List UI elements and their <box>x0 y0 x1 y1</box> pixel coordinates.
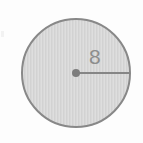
circle-diagram-svg <box>0 0 143 143</box>
scan-artifact-mark <box>1 31 4 37</box>
geometry-figure-canvas: 8 <box>0 0 143 143</box>
circle-center-point-dot <box>72 69 80 77</box>
radius-measure-label: 8 <box>89 46 101 67</box>
